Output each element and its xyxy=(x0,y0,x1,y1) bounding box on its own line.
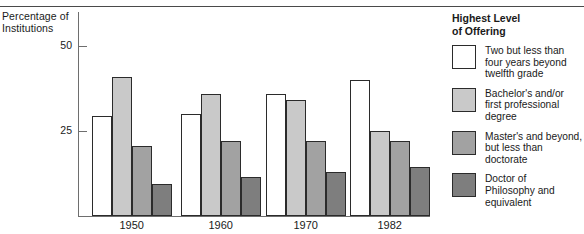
legend-swatch-icon xyxy=(452,88,476,112)
bar xyxy=(390,141,410,216)
legend-item-label: Master's and beyond, but less than docto… xyxy=(485,130,584,166)
legend-swatch-icon xyxy=(452,173,476,197)
legend-item: Doctor of Philosophy and equivalent xyxy=(449,172,584,208)
legend-swatch-icon xyxy=(452,131,476,155)
y-axis-tick-label: 50 xyxy=(46,39,72,51)
y-axis-title: Percentage of Institutions xyxy=(2,10,69,34)
x-axis-label-1960: 1960 xyxy=(181,219,261,231)
x-axis-label-1970: 1970 xyxy=(266,219,346,231)
bar xyxy=(181,114,201,216)
bar xyxy=(201,94,221,216)
bar xyxy=(350,80,370,216)
legend-item-label: Bachelor's and/or first professional deg… xyxy=(485,87,584,123)
bar xyxy=(241,177,261,216)
bar xyxy=(266,94,286,216)
bars-layer xyxy=(78,12,430,216)
chart-legend: Highest Level of Offering Two but less t… xyxy=(449,12,584,215)
legend-swatch-icon xyxy=(452,45,476,69)
legend-item-label: Two but less than four years beyond twel… xyxy=(485,44,584,80)
bar xyxy=(152,184,172,216)
x-axis-label-1950: 1950 xyxy=(92,219,172,231)
bar xyxy=(306,141,326,216)
bar xyxy=(221,141,241,216)
bar xyxy=(286,100,306,216)
bar xyxy=(410,167,430,216)
legend-item: Master's and beyond, but less than docto… xyxy=(449,130,584,166)
bar-chart-figure: Percentage of Institutions 2550 19501960… xyxy=(0,0,584,234)
bar xyxy=(112,77,132,216)
x-axis-label-1982: 1982 xyxy=(350,219,430,231)
legend-items: Two but less than four years beyond twel… xyxy=(449,44,584,208)
top-divider-rule xyxy=(0,6,584,7)
plot-area xyxy=(78,12,430,217)
legend-item-label: Doctor of Philosophy and equivalent xyxy=(485,172,584,208)
legend-title: Highest Level of Offering xyxy=(452,12,584,37)
legend-item: Two but less than four years beyond twel… xyxy=(449,44,584,80)
bar xyxy=(132,146,152,216)
y-axis-tick-label: 25 xyxy=(46,124,72,136)
legend-item: Bachelor's and/or first professional deg… xyxy=(449,87,584,123)
bar xyxy=(92,116,112,216)
bar xyxy=(326,172,346,216)
bar xyxy=(370,131,390,216)
